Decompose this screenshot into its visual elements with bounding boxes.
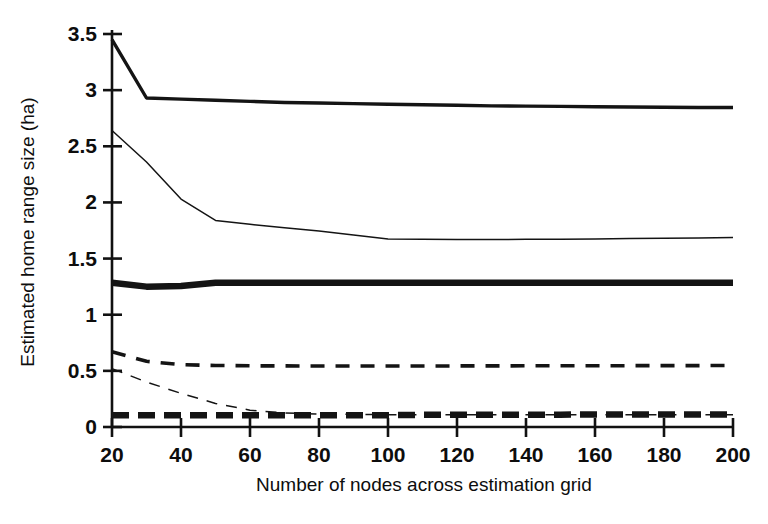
x-tick-label: 80 (307, 443, 330, 466)
x-tick-label: 180 (646, 443, 681, 466)
y-tick-label: 0.5 (68, 359, 98, 382)
x-tick-label: 160 (577, 443, 612, 466)
x-axis-title: Number of nodes across estimation grid (256, 474, 592, 495)
x-tick-label: 100 (370, 443, 405, 466)
y-tick-label: 3 (85, 78, 97, 101)
x-tick-label: 60 (238, 443, 261, 466)
y-tick-label: 1 (85, 303, 97, 326)
x-tick-label: 140 (508, 443, 543, 466)
x-tick-label: 120 (439, 443, 474, 466)
y-tick-label: 0 (85, 415, 97, 438)
line-chart: Estimated home range size (ha) Number of… (0, 0, 768, 524)
x-tick-label: 200 (715, 443, 750, 466)
y-tick-label: 1.5 (68, 247, 98, 270)
chart-figure: Estimated home range size (ha) Number of… (0, 0, 768, 524)
x-tick-label: 20 (100, 443, 123, 466)
x-axis-title-text: Number of nodes across estimation grid (256, 474, 592, 495)
y-axis-title-text: Estimated home range size (ha) (17, 97, 38, 366)
y-tick-label: 2 (85, 190, 97, 213)
x-tick-label: 40 (169, 443, 192, 466)
y-tick-label: 3.5 (68, 22, 98, 45)
y-tick-label: 2.5 (68, 134, 98, 157)
y-axis-title: Estimated home range size (ha) (17, 97, 38, 366)
